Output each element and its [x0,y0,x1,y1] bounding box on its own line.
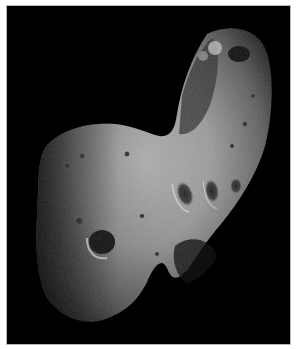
image-frame: Grayscale photograph of an elongated cra… [6,5,291,345]
asteroid-photo [7,6,290,344]
